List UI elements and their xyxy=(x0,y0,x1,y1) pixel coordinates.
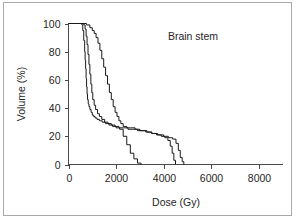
y-tick-label: 80 xyxy=(49,46,61,58)
y-tick-label: 0 xyxy=(55,159,61,171)
x-tick-labels: 02000400060008000 xyxy=(67,172,272,184)
x-tick-label: 0 xyxy=(67,172,73,184)
chart-title: Brain stem xyxy=(168,30,218,42)
y-tick-label: 40 xyxy=(49,102,61,114)
y-tick-label: 60 xyxy=(49,74,61,86)
x-tick-label: 2000 xyxy=(105,172,129,184)
y-axis-label: Volume (%) xyxy=(15,67,27,121)
y-tick-labels: 020406080100 xyxy=(43,18,61,171)
y-tick-label: 20 xyxy=(49,130,61,142)
x-tick-label: 6000 xyxy=(200,172,224,184)
y-tick-label: 100 xyxy=(43,18,61,30)
x-axis-label: Dose (Gy) xyxy=(152,196,200,208)
dvh-curves xyxy=(69,24,184,165)
y-tick-marks xyxy=(65,25,69,166)
dvh-curve-curve-3 xyxy=(69,24,184,165)
x-tick-marks xyxy=(70,165,260,169)
dvh-curve-curve-1 xyxy=(69,24,142,165)
figure-container: 020406080100 02000400060008000 Brain ste… xyxy=(0,0,296,220)
x-tick-label: 4000 xyxy=(153,172,177,184)
x-tick-label: 8000 xyxy=(248,172,272,184)
dvh-chart: 020406080100 02000400060008000 Brain ste… xyxy=(0,0,296,220)
